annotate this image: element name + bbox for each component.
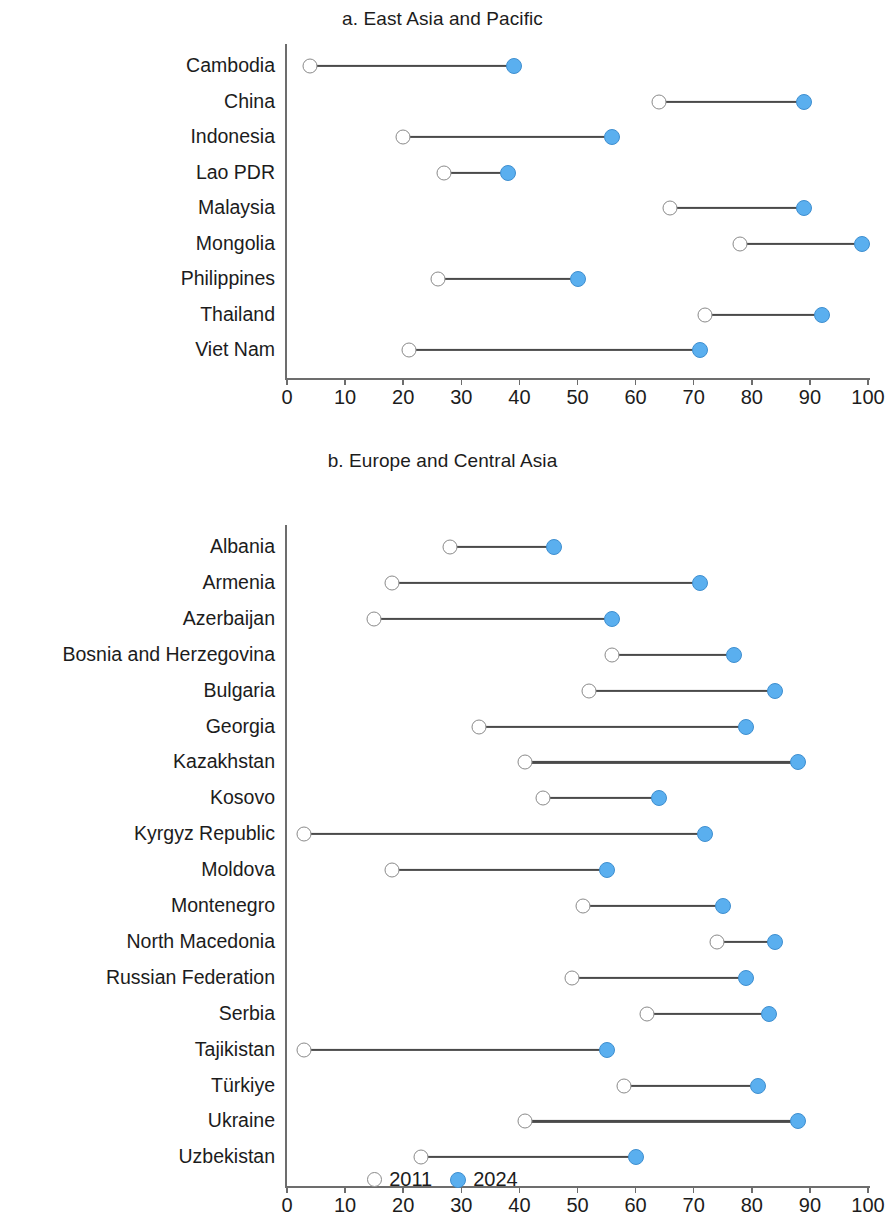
- x-axis-tick-label: 10: [334, 1195, 356, 1215]
- data-point-2011[interactable]: [535, 791, 550, 806]
- data-point-2011[interactable]: [576, 899, 591, 914]
- data-point-2011[interactable]: [297, 827, 312, 842]
- legend-label-2024: 2024: [473, 1168, 518, 1191]
- data-point-2011[interactable]: [518, 1114, 533, 1129]
- data-point-2024[interactable]: [796, 200, 812, 216]
- x-axis-tick: [402, 378, 404, 385]
- panel-a-title: a. East Asia and Pacific: [0, 8, 885, 30]
- data-point-2011[interactable]: [471, 719, 486, 734]
- x-axis-tick-label: 20: [392, 1195, 414, 1215]
- data-point-2024[interactable]: [854, 236, 870, 252]
- category-label: Azerbaijan: [183, 609, 275, 629]
- data-point-2024[interactable]: [790, 754, 806, 770]
- data-point-2011[interactable]: [396, 130, 411, 145]
- data-point-2011[interactable]: [698, 307, 713, 322]
- x-axis-tick-label: 100: [851, 1195, 884, 1215]
- data-point-2011[interactable]: [518, 755, 533, 770]
- x-axis-tick-label: 30: [450, 1195, 472, 1215]
- data-point-2024[interactable]: [500, 165, 516, 181]
- x-axis-tick-label: 20: [392, 387, 414, 407]
- data-point-2011[interactable]: [709, 934, 724, 949]
- data-point-2024[interactable]: [692, 342, 708, 358]
- category-label: Philippines: [181, 269, 275, 289]
- data-point-2024[interactable]: [790, 1113, 806, 1129]
- x-axis-tick-label: 0: [281, 387, 292, 407]
- data-point-2011[interactable]: [640, 1006, 655, 1021]
- data-point-2024[interactable]: [796, 94, 812, 110]
- data-point-2024[interactable]: [570, 271, 586, 287]
- data-point-2024[interactable]: [738, 970, 754, 986]
- x-axis-tick-label: 70: [683, 1195, 705, 1215]
- data-point-2011[interactable]: [402, 343, 417, 358]
- data-point-2011[interactable]: [431, 272, 446, 287]
- data-point-2011[interactable]: [367, 611, 382, 626]
- category-label: Ukraine: [208, 1112, 275, 1132]
- data-point-2011[interactable]: [651, 94, 666, 109]
- open-circle-icon: [367, 1172, 382, 1187]
- dumbbell-connector: [479, 725, 746, 727]
- data-point-2011[interactable]: [663, 201, 678, 216]
- data-point-2011[interactable]: [564, 970, 579, 985]
- data-point-2011[interactable]: [605, 647, 620, 662]
- x-axis-tick-label: 10: [334, 387, 356, 407]
- dumbbell-connector: [543, 797, 659, 799]
- filled-circle-icon: [450, 1172, 466, 1188]
- data-point-2024[interactable]: [726, 647, 742, 663]
- x-axis-tick: [751, 378, 753, 385]
- data-point-2024[interactable]: [599, 862, 615, 878]
- dumbbell-connector: [374, 618, 612, 620]
- dumbbell-connector: [392, 869, 607, 871]
- data-point-2024[interactable]: [814, 307, 830, 323]
- x-axis-tick-label: 60: [624, 1195, 646, 1215]
- x-axis-tick-label: 80: [741, 387, 763, 407]
- data-point-2011[interactable]: [733, 236, 748, 251]
- x-axis-tick-label: 30: [450, 387, 472, 407]
- data-point-2024[interactable]: [599, 1042, 615, 1058]
- data-point-2011[interactable]: [303, 59, 318, 74]
- plot-area-b: 0102030405060708090100AlbaniaArmeniaAzer…: [0, 485, 885, 1185]
- data-point-2024[interactable]: [692, 575, 708, 591]
- data-point-2024[interactable]: [750, 1078, 766, 1094]
- category-label: Kosovo: [210, 789, 275, 809]
- data-point-2024[interactable]: [604, 129, 620, 145]
- x-axis-tick-label: 90: [799, 387, 821, 407]
- data-point-2011[interactable]: [442, 540, 457, 555]
- data-point-2011[interactable]: [582, 683, 597, 698]
- category-label: North Macedonia: [127, 932, 276, 952]
- data-point-2024[interactable]: [767, 934, 783, 950]
- category-label: Kyrgyz Republic: [134, 824, 275, 844]
- category-label: Malaysia: [198, 198, 275, 218]
- data-point-2011[interactable]: [384, 863, 399, 878]
- data-point-2024[interactable]: [761, 1006, 777, 1022]
- data-point-2024[interactable]: [604, 611, 620, 627]
- data-point-2011[interactable]: [384, 575, 399, 590]
- data-point-2011[interactable]: [297, 1042, 312, 1057]
- x-axis-tick-label: 50: [566, 387, 588, 407]
- data-point-2011[interactable]: [616, 1078, 631, 1093]
- data-point-2011[interactable]: [436, 165, 451, 180]
- data-point-2024[interactable]: [546, 539, 562, 555]
- dumbbell-connector: [421, 1156, 636, 1158]
- data-point-2024[interactable]: [506, 58, 522, 74]
- dumbbell-connector: [403, 136, 612, 138]
- legend-label-2011: 2011: [389, 1168, 432, 1191]
- x-axis-tick: [286, 378, 288, 385]
- x-axis-tick: [577, 378, 579, 385]
- category-label: Bosnia and Herzegovina: [63, 645, 275, 665]
- category-label: Moldova: [201, 860, 275, 880]
- x-axis-tick-label: 40: [508, 387, 530, 407]
- data-point-2024[interactable]: [715, 898, 731, 914]
- data-point-2024[interactable]: [651, 790, 667, 806]
- dumbbell-connector: [659, 100, 804, 102]
- data-point-2011[interactable]: [413, 1150, 428, 1165]
- data-point-2024[interactable]: [767, 683, 783, 699]
- panel-b-title: b. Europe and Central Asia: [0, 450, 885, 472]
- category-label: Georgia: [206, 717, 275, 737]
- dumbbell-connector: [438, 278, 577, 280]
- data-point-2024[interactable]: [738, 719, 754, 735]
- category-label: Montenegro: [171, 896, 275, 916]
- dumbbell-connector: [612, 654, 734, 656]
- data-point-2024[interactable]: [697, 826, 713, 842]
- data-point-2024[interactable]: [628, 1149, 644, 1165]
- dumbbell-connector: [624, 1084, 758, 1086]
